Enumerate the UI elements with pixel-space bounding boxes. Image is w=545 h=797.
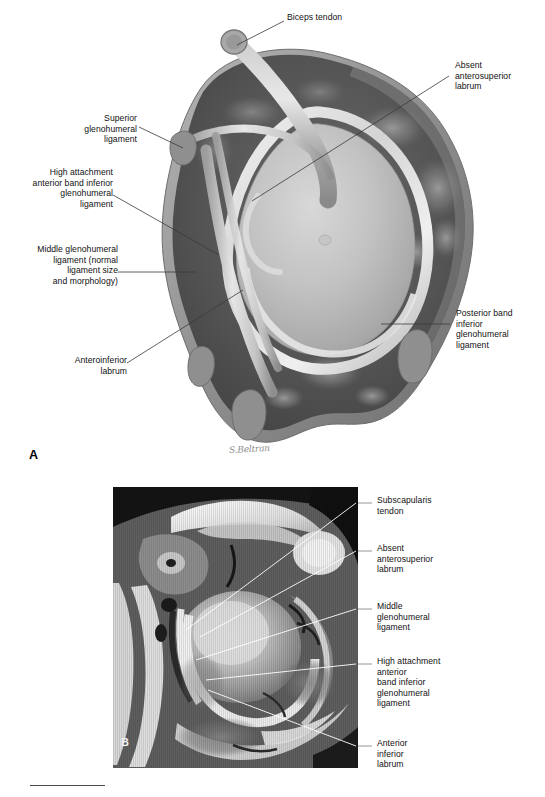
label-high-attachment-anterior-band-b: High attachment anterior band inferior g… xyxy=(377,656,440,709)
panel-b-letter: B xyxy=(121,736,129,748)
posterior-band-ighl-notch xyxy=(398,330,432,383)
mri-scanline-overlay xyxy=(113,487,358,768)
inferior-recess-notch xyxy=(232,390,266,440)
label-biceps-tendon: Biceps tendon xyxy=(287,12,342,23)
label-anteroinferior-labrum: Anteroinferior labrum xyxy=(17,355,127,376)
texture-blob xyxy=(222,96,282,128)
mri-image xyxy=(113,487,358,768)
leader-biceps-tendon xyxy=(237,21,284,45)
leader-group-over-page xyxy=(358,503,372,746)
texture-blob xyxy=(354,385,390,407)
panel-b: B Subscapularis tendon Absent anterosupe… xyxy=(0,478,545,797)
label-middle-glenohumeral-ligament-b: Middle glenohumeral ligament xyxy=(377,601,430,633)
label-subscapularis-tendon: Subscapularis tendon xyxy=(377,495,432,516)
biceps-tendon-core xyxy=(226,35,242,50)
bottom-rule xyxy=(30,785,105,786)
glenoid-central-dimple xyxy=(319,235,331,245)
panel-a: Biceps tendon Absent anterosuperior labr… xyxy=(0,0,545,478)
mri-axial-shoulder xyxy=(113,487,358,768)
label-posterior-band-ighl: Posterior band inferior glenohumeral lig… xyxy=(456,308,513,350)
label-anterior-inferior-labrum: Anterior inferior labrum xyxy=(377,738,408,770)
label-absent-anterosuperior-labrum: Absent anterosuperior labrum xyxy=(455,60,511,92)
superior-labrum-notch xyxy=(170,131,196,165)
artist-signature: S.Beltran xyxy=(229,443,270,455)
label-middle-glenohumeral-ligament: Middle glenohumeral ligament (normal lig… xyxy=(0,244,118,286)
label-superior-glenohumeral-ligament: Superior glenohumeral ligament xyxy=(22,113,137,145)
label-high-attachment-anterior-band: High attachment anterior band inferior g… xyxy=(0,167,113,209)
figure-root: Biceps tendon Absent anterosuperior labr… xyxy=(0,0,545,797)
label-absent-anterosuperior-labrum-b: Absent anterosuperior labrum xyxy=(377,543,433,575)
texture-blob xyxy=(294,78,346,106)
panel-a-letter: A xyxy=(29,448,38,462)
